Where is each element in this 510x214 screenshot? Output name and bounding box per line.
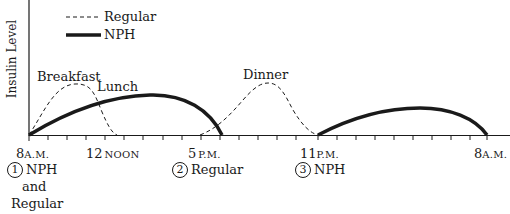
injection-1-regular: Regular xyxy=(11,197,63,211)
tick-label-5pm: 5P.M. xyxy=(188,147,221,162)
injection-1-label: 1NPH xyxy=(7,162,57,178)
tick-label-8am: 8A.M. xyxy=(16,147,49,162)
tick-label-noon: 12NOON xyxy=(86,147,140,162)
legend-regular-label: Regular xyxy=(104,10,156,24)
y-axis-label: Insulin Level xyxy=(5,19,19,99)
nph-morning-curve xyxy=(29,95,222,135)
injection-3-number: 3 xyxy=(295,162,311,178)
tick-label-8am-next: 8A.M. xyxy=(474,147,507,162)
legend-nph-label: NPH xyxy=(104,28,135,42)
injection-2-label: 2Regular xyxy=(172,162,243,178)
nph-bedtime-curve xyxy=(318,108,487,135)
annotation-lunch: Lunch xyxy=(97,80,138,94)
injection-1-number: 1 xyxy=(7,162,23,178)
chart-canvas xyxy=(0,0,510,214)
annotation-breakfast: Breakfast xyxy=(37,70,101,84)
tick-label-11pm: 11P.M. xyxy=(300,147,339,162)
injection-2-number: 2 xyxy=(172,162,188,178)
injection-3-label: 3NPH xyxy=(295,162,345,178)
injection-1-and: and xyxy=(22,180,46,194)
annotation-dinner: Dinner xyxy=(243,68,288,82)
